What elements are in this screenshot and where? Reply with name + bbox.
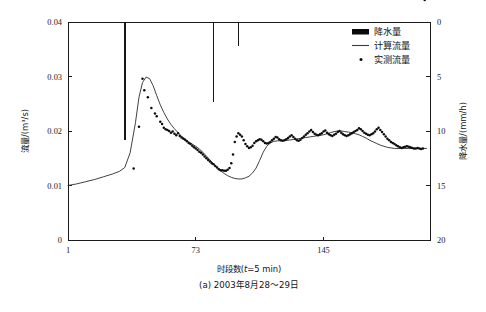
- observed-flow-point: [161, 123, 164, 126]
- y2-axis-tick-label: 0: [437, 18, 441, 27]
- axis-titles-group: 流量/(m³/s)降水量/(mm/h)时段数(t=5 min)(a) 2003年…: [20, 102, 468, 290]
- observed-flow-point: [241, 135, 244, 138]
- observed-flow-point: [132, 167, 135, 170]
- x-axis-title: 时段数(t=5 min): [217, 264, 282, 274]
- x-axis-tick-label: 73: [192, 246, 200, 255]
- y2-axis-tick-label: 20: [437, 236, 445, 245]
- observed-flow-point: [324, 129, 327, 132]
- observed-flow-point: [381, 131, 384, 134]
- y2-axis-tick-label: 5: [437, 73, 441, 82]
- legend-swatch-observed: [360, 58, 363, 61]
- y-axis-tick-label: 0.04: [47, 18, 62, 27]
- legend-item-label: 降水量: [374, 26, 401, 37]
- calculated-flow-line: [68, 77, 426, 185]
- x-axis-tick-label: 145: [317, 246, 330, 255]
- legend-item-label: 实测流量: [374, 54, 410, 65]
- y2-axis-tick-label: 15: [437, 182, 445, 191]
- observed-flow-point: [244, 143, 247, 146]
- observed-flow-point: [377, 126, 380, 129]
- observed-flow-point: [175, 134, 178, 137]
- y-axis-tick-label: 0: [58, 236, 62, 245]
- observed-flow-point: [154, 112, 157, 115]
- observed-flow-point: [235, 135, 238, 138]
- observed-flow-point: [171, 130, 174, 133]
- observed-flow-point: [143, 89, 146, 92]
- observed-flow-point: [230, 162, 233, 165]
- observed-flow-point: [177, 132, 180, 135]
- y2-axis-title: 降水量/(mm/h): [458, 102, 468, 160]
- observed-flow-point: [159, 120, 162, 123]
- observed-flow-point: [232, 153, 235, 156]
- figure-caption: (a) 2003年8月28～29日: [199, 279, 299, 290]
- y-axis-tick-label: 0.02: [47, 127, 62, 136]
- y-axis-title: 流量/(m³/s): [20, 109, 30, 153]
- observed-flow-point: [228, 167, 231, 170]
- observed-flow-point: [379, 129, 382, 132]
- figure-container: 00.010.020.030.0405101520173145 降水量计算流量实…: [0, 0, 486, 312]
- legend-group: 降水量计算流量实测流量: [352, 26, 410, 65]
- observed-flow-point: [374, 130, 377, 133]
- legend-swatch-precipitation: [352, 29, 369, 35]
- observed-flow-point: [155, 115, 158, 118]
- precipitation-bars-group: [125, 22, 239, 140]
- observed-flow-point: [422, 147, 425, 150]
- observed-flow-point: [138, 125, 141, 128]
- calculated-flow-line-group: [68, 77, 426, 185]
- observed-flow-point: [310, 129, 313, 132]
- observed-flow-point: [423, 0, 426, 1]
- observed-flow-point: [147, 96, 150, 99]
- observed-flow-point: [234, 141, 237, 144]
- observed-flow-point: [141, 77, 144, 80]
- y2-axis-tick-label: 10: [437, 127, 445, 136]
- chart-svg: 00.010.020.030.0405101520173145 降水量计算流量实…: [0, 0, 486, 312]
- x-axis-tick-label: 1: [66, 246, 70, 255]
- observed-flow-point: [202, 153, 205, 156]
- y-axis-tick-label: 0.01: [47, 182, 62, 191]
- legend-item-label: 计算流量: [374, 40, 410, 51]
- observed-flow-point: [383, 133, 386, 136]
- observed-flow-point: [384, 135, 387, 138]
- observed-flow-point: [251, 144, 254, 147]
- y-axis-tick-label: 0.03: [47, 73, 62, 82]
- observed-flow-point: [242, 139, 245, 142]
- observed-flow-point: [150, 107, 153, 110]
